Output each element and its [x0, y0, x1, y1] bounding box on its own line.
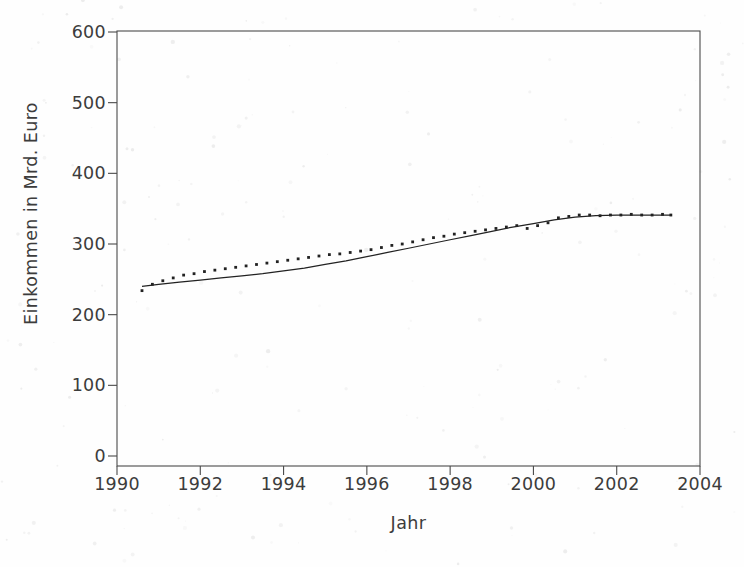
data-point	[599, 214, 602, 217]
paper-speck	[520, 470, 521, 471]
paper-speck	[237, 124, 241, 128]
paper-speck	[153, 126, 155, 128]
series-trend-line	[142, 215, 671, 286]
paper-speck	[245, 20, 247, 22]
paper-speck	[408, 91, 409, 92]
paper-speck	[724, 226, 726, 228]
paper-speck	[188, 238, 190, 240]
paper-speck	[81, 0, 85, 2]
paper-speck	[472, 407, 473, 408]
paper-speck	[245, 201, 248, 204]
paper-speck	[228, 462, 230, 464]
paper-speck	[111, 18, 113, 20]
paper-speck	[197, 508, 200, 511]
paper-speck	[511, 18, 514, 21]
paper-speck	[124, 509, 127, 512]
paper-speck	[416, 417, 418, 419]
paper-speck	[289, 45, 290, 46]
paper-speck	[158, 184, 161, 187]
paper-speck	[241, 125, 242, 126]
paper-speck	[548, 58, 551, 61]
paper-speck	[610, 202, 613, 205]
paper-speck	[499, 16, 501, 18]
data-point	[193, 272, 196, 275]
paper-speck	[499, 364, 503, 368]
data-point	[318, 255, 321, 258]
data-point	[578, 214, 581, 217]
paper-speck	[297, 409, 300, 412]
data-point	[286, 259, 289, 262]
paper-speck	[638, 253, 641, 256]
paper-speck	[32, 521, 36, 525]
paper-speck	[171, 40, 175, 44]
paper-speck	[190, 183, 193, 186]
data-point	[401, 243, 404, 246]
paper-speck	[533, 473, 537, 477]
data-point	[567, 215, 570, 218]
paper-speck	[94, 290, 96, 292]
data-point	[307, 256, 310, 259]
data-point	[328, 253, 331, 256]
paper-speck	[186, 75, 190, 79]
paper-speck	[508, 483, 510, 485]
paper-speck	[604, 358, 607, 361]
paper-speck	[292, 111, 295, 114]
paper-speck	[251, 535, 255, 539]
data-point	[245, 265, 248, 268]
paper-speck	[34, 368, 37, 371]
paper-speck	[742, 42, 744, 44]
paper-speck	[56, 465, 58, 467]
paper-speck	[336, 62, 338, 64]
paper-speck	[471, 194, 473, 196]
paper-speck	[614, 230, 617, 233]
series-observed-dots	[141, 213, 673, 292]
paper-speck	[727, 52, 731, 56]
paper-speck	[557, 380, 561, 384]
paper-speck	[45, 102, 47, 104]
paper-speck	[212, 135, 216, 139]
paper-speck	[113, 509, 116, 512]
paper-speck	[344, 387, 347, 390]
paper-speck	[298, 542, 299, 543]
paper-speck	[283, 216, 285, 218]
paper-speck	[131, 552, 135, 556]
paper-speck	[27, 532, 30, 535]
paper-speck	[727, 86, 730, 89]
y-axis-ticks	[108, 32, 117, 456]
paper-speck	[6, 539, 8, 541]
paper-speck	[713, 258, 716, 261]
paper-speck	[637, 121, 640, 124]
data-point	[432, 236, 435, 239]
data-point	[505, 226, 508, 229]
paper-speck	[131, 148, 134, 151]
paper-speck	[76, 34, 78, 36]
paper-speck	[169, 505, 171, 507]
data-point	[370, 248, 373, 251]
paper-speck	[482, 195, 483, 196]
paper-speck	[154, 218, 156, 220]
paper-speck	[733, 431, 735, 433]
paper-speck	[442, 429, 445, 432]
paper-speck	[408, 327, 410, 329]
paper-speck	[199, 281, 203, 285]
paper-speck	[1, 480, 3, 482]
data-point	[203, 270, 206, 273]
paper-speck	[19, 343, 23, 347]
paper-speck	[168, 243, 170, 245]
paper-speck	[603, 144, 604, 145]
paper-speck	[289, 180, 293, 184]
paper-speck	[684, 94, 686, 96]
paper-speck	[101, 284, 103, 286]
paper-speck	[386, 256, 387, 257]
paper-speck	[406, 111, 410, 115]
paper-speck	[721, 73, 724, 76]
paper-speck	[584, 375, 586, 377]
data-point	[224, 267, 227, 270]
paper-speck	[122, 559, 126, 563]
paper-speck	[423, 386, 424, 387]
paper-speck	[282, 210, 284, 212]
paper-speck	[53, 342, 54, 343]
paper-speck	[475, 444, 479, 448]
data-point	[255, 263, 258, 266]
paper-speck	[183, 526, 187, 530]
